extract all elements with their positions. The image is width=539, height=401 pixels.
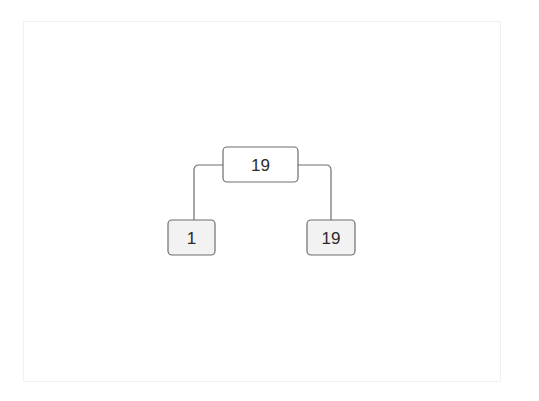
node-left-label: 1 — [187, 229, 196, 248]
node-right-leaf: 19 — [307, 220, 355, 255]
node-left-leaf: 1 — [168, 220, 215, 255]
node-root-label: 19 — [251, 156, 270, 175]
node-right-label: 19 — [322, 229, 341, 248]
edge-root-left — [194, 165, 223, 220]
node-root: 19 — [223, 147, 298, 182]
tree-diagram: 19 1 19 — [0, 0, 539, 401]
edge-root-right — [298, 165, 331, 220]
